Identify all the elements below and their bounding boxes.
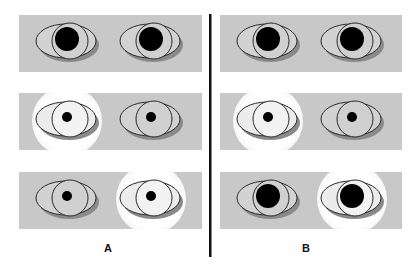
panel-b-label: B: [302, 242, 310, 254]
pupil: [256, 27, 280, 51]
pupil: [340, 184, 364, 208]
pupil-response-diagram: [0, 0, 418, 266]
pupil: [139, 27, 163, 51]
pupil: [256, 184, 280, 208]
pupil: [62, 191, 72, 201]
pupil: [55, 27, 79, 51]
pupil: [146, 191, 156, 201]
pupil: [146, 112, 156, 122]
panel-a-label: A: [104, 242, 112, 254]
pupil: [347, 112, 357, 122]
panel-divider: [209, 14, 212, 257]
pupil: [263, 112, 273, 122]
pupil: [340, 27, 364, 51]
pupil: [62, 112, 72, 122]
